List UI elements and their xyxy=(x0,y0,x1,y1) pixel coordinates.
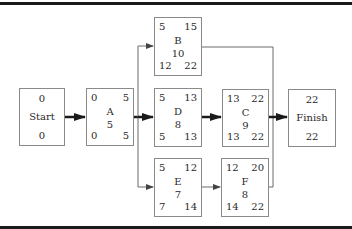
c-lf: 22 xyxy=(251,132,264,142)
b-ef: 15 xyxy=(184,22,197,32)
c-es: 13 xyxy=(227,94,240,104)
a-ls: 0 xyxy=(91,131,97,141)
node-c: 13 22 C 9 13 22 xyxy=(222,89,269,147)
e-name: E xyxy=(155,175,201,188)
d-ls: 5 xyxy=(159,132,165,142)
a-name: A xyxy=(87,105,133,118)
e-ef: 12 xyxy=(184,163,197,173)
d-es: 5 xyxy=(159,93,165,103)
d-name: D xyxy=(155,105,201,118)
bottom-rule xyxy=(0,226,352,229)
e-ls: 7 xyxy=(159,202,165,212)
b-duration: 10 xyxy=(155,47,201,60)
node-a: 0 5 A 5 0 5 xyxy=(86,88,134,146)
f-es: 12 xyxy=(226,163,239,173)
start-label: Start xyxy=(20,111,64,122)
d-duration: 8 xyxy=(155,118,201,131)
d-ef: 13 xyxy=(184,93,197,103)
b-lf: 22 xyxy=(184,61,197,71)
d-lf: 13 xyxy=(184,132,197,142)
node-e: 5 12 E 7 7 14 xyxy=(154,158,202,217)
start-top-value: 0 xyxy=(20,93,64,104)
start-bottom-value: 0 xyxy=(20,130,64,141)
a-ef: 5 xyxy=(123,93,129,103)
node-finish: 22 Finish 22 xyxy=(288,89,336,147)
finish-label: Finish xyxy=(289,112,335,123)
f-ef: 20 xyxy=(251,163,264,173)
c-name: C xyxy=(223,106,268,119)
node-f: 12 20 F 8 14 22 xyxy=(221,158,269,217)
f-ls: 14 xyxy=(226,202,239,212)
node-b: 5 15 B 10 12 22 xyxy=(154,17,202,76)
f-duration: 8 xyxy=(222,188,268,201)
node-d: 5 13 D 8 5 13 xyxy=(154,88,202,147)
b-name: B xyxy=(155,34,201,47)
f-name: F xyxy=(222,175,268,188)
e-es: 5 xyxy=(159,163,165,173)
f-lf: 22 xyxy=(251,202,264,212)
e-lf: 14 xyxy=(184,202,197,212)
a-lf: 5 xyxy=(123,131,129,141)
c-ef: 22 xyxy=(251,94,264,104)
finish-bottom-value: 22 xyxy=(289,131,335,142)
b-ls: 12 xyxy=(159,61,172,71)
e-duration: 7 xyxy=(155,188,201,201)
finish-top-value: 22 xyxy=(289,94,335,105)
c-ls: 13 xyxy=(227,132,240,142)
node-start: 0 Start 0 xyxy=(19,88,65,146)
b-es: 5 xyxy=(159,22,165,32)
a-es: 0 xyxy=(91,93,97,103)
